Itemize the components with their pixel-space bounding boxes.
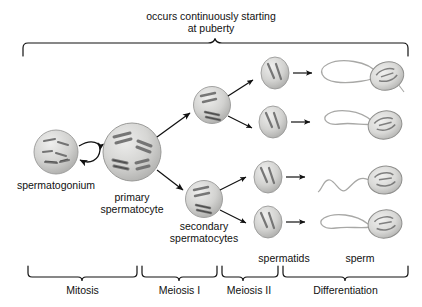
label-primary-spermatocyte-line2: spermatocyte bbox=[82, 204, 182, 216]
phase-brace-mitosis bbox=[28, 266, 137, 281]
phase-brace-differentiation bbox=[283, 266, 408, 281]
cell-sperm-1 bbox=[322, 57, 408, 94]
meiosis-i-arrows bbox=[157, 113, 190, 190]
label-spermatogonium: spermatogonium bbox=[0, 180, 112, 192]
cell-spermatid-1 bbox=[261, 57, 289, 89]
label-sperm: sperm bbox=[330, 253, 390, 265]
cell-sperm-3 bbox=[318, 164, 404, 196]
cell-spermatid-4 bbox=[254, 206, 282, 238]
spermatogenesis-diagram: occurs continuously starting at puberty … bbox=[0, 0, 422, 307]
label-secondary-spermatocytes-line2: spermatocytes bbox=[152, 233, 256, 245]
cell-sperm-4 bbox=[321, 207, 404, 240]
cell-secondary-spermatocyte-upper bbox=[194, 87, 231, 124]
cell-spermatid-2 bbox=[259, 106, 287, 138]
label-spermatids: spermatids bbox=[244, 253, 324, 265]
label-secondary-spermatocytes-line1: secondary bbox=[152, 221, 256, 233]
differentiation-arrows bbox=[286, 73, 312, 222]
cell-spermatogonium bbox=[34, 130, 78, 174]
cell-sperm-2 bbox=[325, 107, 405, 142]
top-brace bbox=[23, 39, 408, 57]
label-primary-spermatocyte-line1: primary bbox=[82, 192, 182, 204]
cell-spermatid-3 bbox=[254, 161, 282, 193]
top-caption-line1: occurs continuously starting bbox=[0, 10, 422, 22]
phase-brace-meiosis-ii bbox=[222, 266, 278, 281]
top-caption-line2: at puberty bbox=[0, 22, 422, 34]
phase-label-mitosis: Mitosis bbox=[28, 284, 137, 296]
cell-secondary-spermatocyte-lower bbox=[186, 181, 223, 218]
cell-primary-spermatocyte bbox=[103, 123, 161, 181]
phase-brace-meiosis-i bbox=[142, 266, 217, 281]
self-renewal-loop-arrow bbox=[79, 142, 100, 162]
phase-label-differentiation: Differentiation bbox=[283, 284, 408, 296]
phase-label-meiosis-ii: Meiosis II bbox=[218, 284, 280, 296]
phase-label-meiosis-i: Meiosis I bbox=[142, 284, 217, 296]
